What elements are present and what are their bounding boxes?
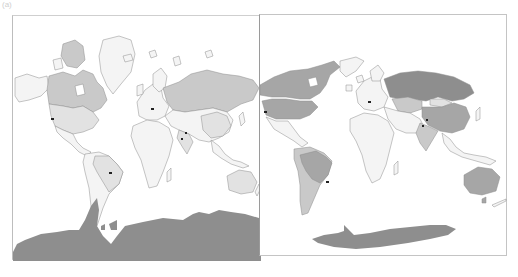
region-greenland [99, 36, 135, 94]
region-canada [260, 61, 340, 99]
hudson-bay [308, 77, 318, 87]
region-antarctica [312, 225, 456, 249]
marker-pakistan [426, 119, 428, 121]
region-scandinavia [370, 65, 384, 81]
marker-central-europe [368, 101, 371, 103]
region-arctic-islands [61, 40, 85, 68]
region-russia [163, 70, 259, 112]
region-madagascar [167, 168, 171, 182]
marker-india [181, 138, 183, 140]
marker-brazil [326, 181, 329, 183]
marker-california [51, 118, 54, 120]
region-africa [131, 120, 173, 188]
equal-area-world-map [260, 15, 508, 257]
map-panel-equal-area [259, 14, 507, 256]
region-australia [464, 167, 500, 195]
region-greenland [340, 57, 364, 77]
region-australia [227, 170, 257, 194]
region-africa [350, 113, 394, 183]
region-se-asia [211, 140, 249, 168]
mercator-world-map [13, 16, 261, 261]
marker-central-europe [151, 108, 154, 110]
marker-pakistan [185, 132, 187, 134]
region-se-asia [442, 133, 496, 165]
region-madagascar [394, 161, 398, 175]
region-mexico [266, 117, 308, 147]
figure-corner-label: (a) [2, 0, 12, 9]
region-usa [262, 99, 318, 119]
hudson-bay [75, 84, 85, 96]
marker-california [264, 111, 267, 113]
marker-india [422, 125, 424, 127]
map-panel-mercator [12, 15, 260, 260]
region-alaska [15, 74, 49, 102]
marker-brazil [109, 172, 112, 174]
region-russia [384, 71, 474, 101]
region-antarctica [13, 198, 261, 261]
